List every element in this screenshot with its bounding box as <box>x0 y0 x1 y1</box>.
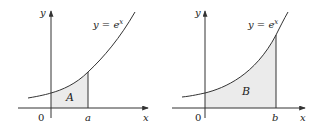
curve-label: y = ex <box>247 18 278 30</box>
figure-left: y x 0 a A y = ex <box>18 7 149 123</box>
y-axis-label: y <box>194 7 201 18</box>
origin-label: 0 <box>38 112 44 123</box>
x-axis-label: x <box>300 112 306 123</box>
x-axis-label: x <box>143 112 149 123</box>
bound-label-a: a <box>85 112 91 123</box>
diagram-canvas: y x 0 a A y = ex y x 0 b B y = ex <box>0 0 317 130</box>
shaded-region-b <box>205 35 276 108</box>
region-label-b: B <box>241 85 250 98</box>
bound-label-b: b <box>272 112 278 123</box>
y-axis-label: y <box>39 7 46 18</box>
figure-right: y x 0 b B y = ex <box>172 7 306 123</box>
curve-label: y = ex <box>92 18 123 30</box>
region-label-a: A <box>65 91 74 104</box>
origin-label: 0 <box>195 112 201 123</box>
